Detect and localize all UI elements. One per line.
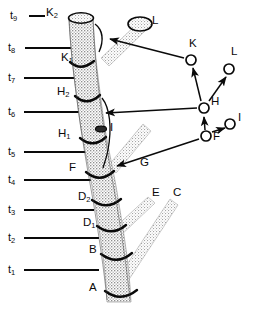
internode-label-B: B [89, 244, 97, 256]
branch-marker-I [96, 126, 107, 132]
figure-canvas: t9 t8 t7 t6 t5 t4 t3 t2 t1 K2 K1 H2 H1 F… [0, 0, 255, 313]
time-label-t1: t1 [8, 264, 15, 275]
branch-label-E: E [152, 187, 160, 199]
branch-label-L: L [152, 15, 158, 27]
branch-cut-ellipse-L [128, 17, 152, 31]
time-label-t5: t5 [8, 146, 15, 157]
network-node-L [224, 64, 234, 74]
time-label-t7: t7 [8, 72, 15, 83]
network-node-H [199, 103, 209, 113]
stalk-diagram-svg [0, 0, 255, 313]
network-to-stalk-arrows [106, 39, 199, 166]
time-label-t6: t6 [8, 106, 15, 117]
branch-label-C: C [173, 187, 181, 199]
time-label-t3: t3 [8, 204, 15, 215]
internode-label-D2: D2 [78, 191, 90, 203]
bracket-K2 [95, 24, 102, 52]
network-label-K: K [189, 38, 197, 50]
internode-label-K1: K1 [61, 52, 73, 64]
time-label-t8: t8 [8, 42, 15, 53]
time-label-t2: t2 [8, 232, 15, 243]
edge-H-to-K [193, 68, 201, 101]
internode-label-H1: H1 [58, 128, 70, 140]
network-node-I [225, 119, 235, 129]
network-label-I: I [238, 112, 241, 124]
branch-label-I: I [110, 122, 113, 134]
time-label-t9: t9 [10, 10, 17, 21]
stalk-top-cut-K2 [69, 13, 94, 23]
network-edges [193, 68, 226, 132]
internode-label-A: A [89, 282, 97, 294]
branch-label-G: G [140, 157, 149, 169]
edge-F-to-H [204, 117, 205, 130]
time-label-t4: t4 [8, 174, 15, 185]
internode-label-K2: K2 [46, 7, 58, 19]
network-label-H: H [211, 96, 219, 108]
arrow-H-to-stalk [106, 108, 197, 113]
network-label-F: F [213, 131, 220, 143]
network-node-F [201, 131, 211, 141]
internode-label-F: F [69, 162, 76, 174]
network-label-L: L [231, 46, 237, 58]
internode-label-D1: D1 [83, 217, 95, 229]
internode-label-H2: H2 [57, 86, 69, 98]
network-node-K [186, 55, 196, 65]
